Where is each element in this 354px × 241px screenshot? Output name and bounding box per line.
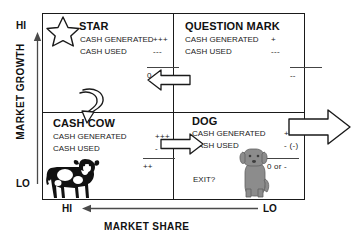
dog-icon [237,145,271,199]
cash-generated-label: CASH GENERATED [185,34,259,46]
quadrant-cash-cow[interactable]: CASH COW CASH GENERATED +++ CASH USED - … [43,113,173,201]
cash-row: CASH GENERATED +++ [53,131,173,143]
cash-row: CASH USED - [53,143,173,155]
cash-used-label: CASH USED [185,46,232,58]
cash-rows: CASH GENERATED +++ CASH USED --- [80,34,172,58]
quadrant-question-mark[interactable]: QUESTION MARK CASH GENERATED + CASH USED… [174,14,306,112]
cash-used-label: CASH USED [80,46,127,58]
x-axis-high-tick: HI [62,203,72,214]
bcg-matrix-diagram: MARKET GROWTH HI LO HI LO MARKET SHARE S… [0,0,354,241]
flow-arrow-cash-cow-to-dog-icon [160,133,204,155]
flow-arrow-question-mark-to-star-icon [147,68,191,92]
net-rule [143,158,175,159]
cash-generated-value: + [271,34,276,46]
x-axis-low-tick: LO [263,203,277,214]
cash-generated-label: CASH GENERATED [53,131,127,143]
cash-generated-label: CASH GENERATED [80,34,154,46]
net-cash-block: 0 or - [267,158,305,171]
cash-rows: CASH GENERATED + CASH USED --- [185,34,303,58]
x-axis-arrow-icon [82,204,258,213]
cash-row: CASH USED --- [80,46,172,58]
quadrant-title: DOG [192,115,217,127]
net-cash-value: -- [290,71,328,80]
cash-row: CASH GENERATED +++ [80,34,172,46]
cash-used-value: --- [271,46,280,58]
cash-rows: CASH GENERATED +++ CASH USED - [53,131,173,155]
y-axis-label: MARKET GROWTH [15,27,26,157]
flow-arrow-star-to-cash-cow-icon [78,87,110,125]
y-axis-arrow-icon [33,32,42,184]
cash-used-value: - [155,143,158,155]
flow-arrow-dog-exit-icon [288,108,352,146]
cash-row: CASH USED --- [185,46,303,58]
quadrant-title: STAR [79,20,109,32]
y-axis-low-tick: LO [16,178,30,189]
net-cash-block: -- [290,67,328,80]
y-axis-high-tick: HI [16,20,26,31]
cash-generated-value: +++ [153,34,168,46]
star-icon [46,15,80,47]
quadrant-title: QUESTION MARK [185,20,280,32]
net-rule [267,158,299,159]
x-axis-label: MARKET SHARE [104,221,189,232]
quadrant-dog[interactable]: DOG CASH GENERATED + CASH USED - (-) 0 o… [174,113,306,201]
cow-icon [45,156,101,199]
exit-label: EXIT? [193,175,215,184]
net-cash-value: 0 or - [267,162,305,171]
net-rule [290,67,322,68]
cash-used-label: CASH USED [53,143,100,155]
cash-row: CASH GENERATED + [185,34,303,46]
cash-used-value: --- [153,46,162,58]
